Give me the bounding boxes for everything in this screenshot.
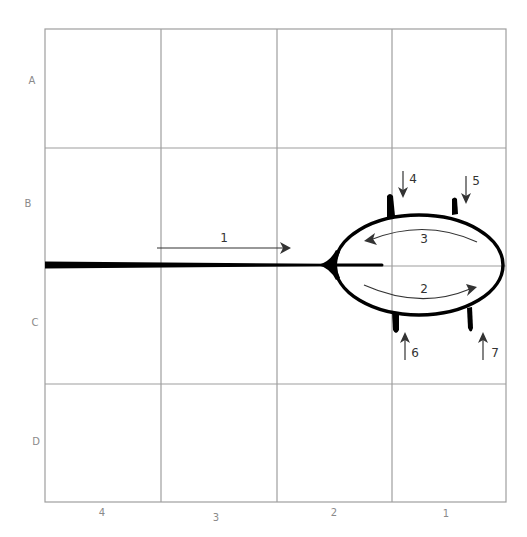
arrow-6: 6 <box>400 332 419 360</box>
arrow-7: 7 <box>478 332 499 360</box>
arrow-5-label: 5 <box>472 174 480 188</box>
row-label-d: D <box>32 436 40 447</box>
arrow-2-label: 2 <box>420 282 428 296</box>
arrow-4-label: 4 <box>409 172 417 186</box>
branch-6 <box>392 312 399 333</box>
column-label-4: 4 <box>99 507 105 518</box>
arrow-4: 4 <box>398 171 417 198</box>
main-stem <box>45 262 330 269</box>
column-label-2: 2 <box>331 507 337 518</box>
arrow-6-label: 6 <box>411 346 419 360</box>
column-labels: 4 3 2 1 <box>99 507 449 523</box>
diagram: A B C D 4 3 2 1 1 <box>0 0 527 537</box>
row-label-a: A <box>29 75 36 86</box>
arrow-5: 5 <box>461 174 480 204</box>
column-label-1: 1 <box>443 508 449 519</box>
row-label-c: C <box>32 317 39 328</box>
arrow-2: 2 <box>364 282 477 299</box>
branch-5 <box>452 198 458 216</box>
arrow-2-shaft <box>364 285 470 299</box>
arrow-3-label: 3 <box>420 232 428 246</box>
arrow-7-label: 7 <box>491 346 499 360</box>
arrow-1-label: 1 <box>220 231 228 245</box>
row-labels: A B C D <box>25 75 41 447</box>
branch-4 <box>387 194 395 218</box>
arrow-3: 3 <box>364 229 477 246</box>
arrow-1: 1 <box>157 231 291 254</box>
branch-7 <box>467 307 473 332</box>
arrow-left-icon <box>364 233 377 245</box>
vessel-loop <box>45 194 503 333</box>
column-label-3: 3 <box>213 512 219 523</box>
row-label-b: B <box>25 198 32 209</box>
